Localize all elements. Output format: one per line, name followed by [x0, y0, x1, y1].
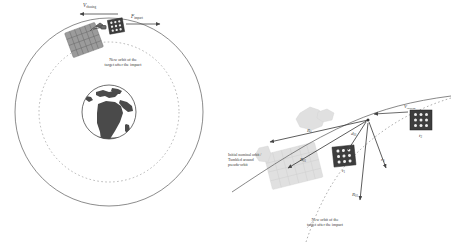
vector-R01-label: R01 [300, 157, 306, 163]
figure-canvas: Vchasing Fimpact New orbit of the target… [0, 0, 451, 242]
target-satellite-t2 [410, 110, 432, 130]
initial-orbit-note-right: Initial nominal orbit / Tumbled around p… [228, 153, 261, 168]
v-chasing-arrow-right [374, 112, 408, 114]
t1-label: t1 [342, 168, 345, 174]
v-chasing-label-right: Vchasing [404, 104, 416, 110]
vector-r0-label: r0 [381, 157, 385, 163]
vector-R01b [360, 123, 368, 200]
new-orbit-note-right: New orbit of the target after the impact [296, 218, 354, 227]
vector-d01-label: d01 [351, 131, 357, 137]
t2-label: t2 [419, 133, 422, 139]
chaser-spacecraft-faint [255, 107, 334, 190]
right-panel-graphics [0, 0, 451, 242]
target-satellite-t1 [332, 145, 356, 167]
vector-R01b-label: R01 [352, 192, 358, 198]
vector-R0-label: R0 [307, 128, 312, 134]
